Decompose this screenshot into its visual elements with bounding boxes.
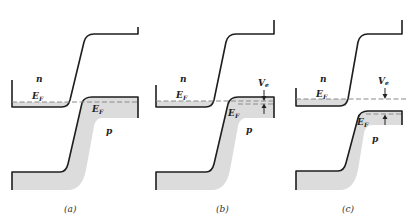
n-region-label: n [36, 74, 43, 84]
panel-caption: (a) [64, 204, 77, 214]
n-region-label: n [180, 74, 187, 84]
voltage-label: Ve [258, 78, 269, 88]
n-well-shading [156, 101, 214, 107]
p-region-label: p [372, 134, 379, 144]
panel-caption: (b) [216, 204, 229, 214]
p-valence-shading [12, 97, 138, 190]
panel-a: n EF EF p (a) [12, 27, 138, 214]
panel-caption: (c) [342, 204, 355, 214]
p-region-label: p [106, 126, 113, 136]
conduction-band-edge [156, 20, 274, 107]
voltage-label: Ve [378, 76, 389, 86]
fermi-label-n: EF [31, 91, 44, 102]
arrowhead-down-icon [383, 94, 388, 99]
fermi-label-n: EF [315, 89, 328, 100]
pn-junction-band-diagram: n EF EF p (a) Ve n EF EF p (b) [0, 0, 415, 224]
p-valence-shading [156, 97, 274, 190]
fermi-label-n: EF [175, 90, 188, 101]
conduction-band-edge [12, 27, 138, 107]
p-region-label: p [246, 125, 253, 135]
panel-b: Ve n EF EF p (b) [156, 20, 274, 214]
n-well-shading [296, 99, 348, 106]
conduction-band-edge [296, 20, 402, 106]
panel-c: Ve n EF EF p (c) [296, 20, 406, 214]
n-region-label: n [320, 74, 327, 84]
